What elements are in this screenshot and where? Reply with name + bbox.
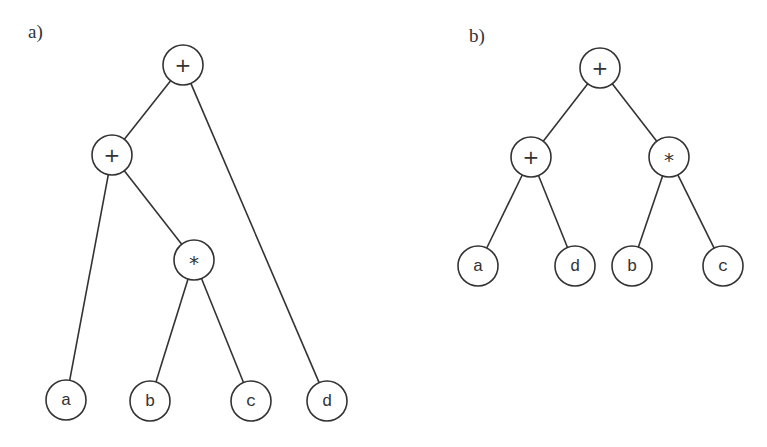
expression-trees-diagram: a)++*abcdb)++*adbc <box>0 0 767 447</box>
tree-node-times: * <box>649 137 689 177</box>
tree-node-plus: + <box>163 45 203 85</box>
tree-edge <box>543 84 587 141</box>
node-label: + <box>104 143 121 167</box>
tree-edge <box>678 175 714 248</box>
tree-node-a: a <box>458 246 498 286</box>
node-label: * <box>664 148 674 172</box>
tree-edge <box>638 176 662 247</box>
tree-node-c: c <box>231 381 271 421</box>
tree-node-plus: + <box>511 137 551 177</box>
tree-edge <box>124 81 170 140</box>
tree-edge <box>156 279 188 382</box>
node-label: a <box>473 257 483 276</box>
tree-node-b: b <box>612 246 652 286</box>
tree-edge <box>538 176 567 248</box>
tree-panel-a: a)++*abcd <box>28 21 347 421</box>
tree-node-times: * <box>174 240 214 280</box>
node-label: + <box>175 53 192 77</box>
node-label: c <box>718 257 728 276</box>
node-label: b <box>145 392 155 411</box>
node-label: b <box>627 257 637 276</box>
tree-node-d: d <box>307 381 347 421</box>
node-label: + <box>523 145 540 169</box>
tree-node-plus: + <box>580 48 620 88</box>
node-label: d <box>322 392 332 411</box>
tree-edge <box>487 175 523 248</box>
tree-node-a: a <box>46 380 86 420</box>
panel-label: b) <box>469 25 485 47</box>
tree-node-c: c <box>703 246 743 286</box>
tree-edge <box>70 175 109 381</box>
node-label: a <box>61 391 71 410</box>
tree-edge <box>124 171 181 244</box>
tree-node-plus: + <box>92 135 132 175</box>
node-label: * <box>189 251 199 275</box>
node-label: c <box>246 392 256 411</box>
panel-label: a) <box>28 21 43 43</box>
tree-node-d: d <box>555 246 595 286</box>
node-label: d <box>570 257 580 276</box>
tree-edge <box>612 84 656 141</box>
tree-node-b: b <box>130 381 170 421</box>
tree-panel-b: b)++*adbc <box>458 25 743 286</box>
tree-edge <box>191 83 319 382</box>
node-label: + <box>592 56 609 80</box>
tree-edge <box>201 279 243 383</box>
